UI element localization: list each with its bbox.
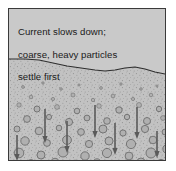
screenshot-root: Current slows down; coarse, heavy partic… bbox=[0, 0, 176, 171]
sediment-particle bbox=[46, 114, 51, 119]
sediment-particle bbox=[144, 118, 151, 125]
sediment-particle bbox=[85, 140, 92, 147]
sediment-particle bbox=[21, 137, 29, 145]
sediment-particle bbox=[24, 116, 31, 123]
sediment-particle bbox=[51, 97, 54, 100]
sediment-particle bbox=[116, 107, 122, 113]
sediment-particle bbox=[149, 136, 157, 144]
sediment-particle bbox=[78, 129, 85, 136]
sediment-particle bbox=[102, 148, 111, 157]
caption-line-3: settle first bbox=[18, 71, 158, 82]
sediment-particle bbox=[55, 105, 60, 110]
sediment-particle bbox=[141, 125, 148, 132]
sedimentation-diagram-panel: Current slows down; coarse, heavy partic… bbox=[8, 8, 166, 161]
sediment-particle bbox=[126, 139, 135, 148]
sediment-particle bbox=[104, 118, 111, 125]
sediment-particle bbox=[56, 125, 62, 131]
sediment-particle bbox=[137, 103, 142, 108]
sediment-particle bbox=[156, 106, 161, 111]
sediment-particle bbox=[37, 151, 45, 159]
caption-line-1: Current slows down; bbox=[18, 26, 158, 37]
sediment-particle bbox=[35, 127, 43, 135]
sediment-particle bbox=[131, 97, 134, 100]
sediment-particle bbox=[99, 125, 107, 133]
sediment-particle bbox=[29, 95, 33, 99]
sediment-particle bbox=[97, 104, 102, 109]
sediment-particle bbox=[111, 94, 115, 98]
sediment-particle bbox=[84, 115, 90, 121]
sediment-particle bbox=[120, 130, 126, 136]
sediment-particle bbox=[124, 114, 129, 119]
sediment-particle bbox=[81, 152, 89, 160]
sediment-particle bbox=[162, 129, 165, 135]
sediment-particle bbox=[125, 152, 133, 160]
sediment-particle bbox=[74, 108, 80, 114]
sediment-particle bbox=[34, 106, 40, 112]
sediment-particle bbox=[146, 148, 156, 158]
sediment-particle bbox=[161, 116, 165, 121]
sediment-particle bbox=[14, 126, 20, 132]
diagram-caption: Current slows down; coarse, heavy partic… bbox=[18, 15, 158, 94]
sediment-particle bbox=[105, 137, 113, 145]
sediment-particle bbox=[91, 98, 94, 101]
sediment-particle bbox=[17, 103, 21, 107]
caption-line-2: coarse, heavy particles bbox=[18, 49, 158, 60]
